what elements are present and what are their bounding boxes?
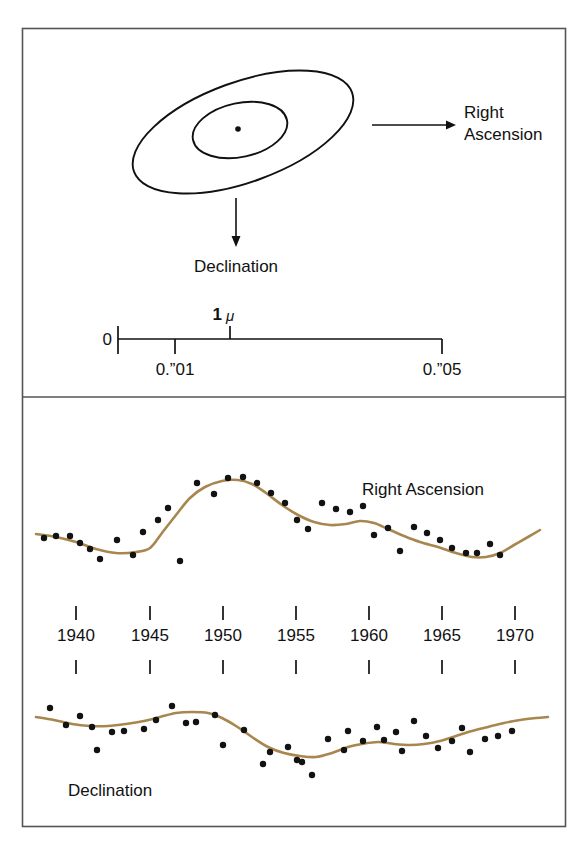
data-point — [495, 733, 501, 739]
data-point — [325, 736, 331, 742]
data-point — [225, 475, 231, 481]
data-point — [319, 500, 325, 506]
year-tick-label: 1950 — [204, 626, 242, 645]
data-point — [294, 517, 300, 523]
data-point — [411, 524, 417, 530]
data-point — [47, 705, 53, 711]
data-point — [141, 726, 147, 732]
year-tick-label: 1955 — [277, 626, 315, 645]
data-point — [254, 480, 260, 486]
data-point — [41, 535, 47, 541]
data-point — [153, 717, 159, 723]
data-point — [285, 744, 291, 750]
year-tick-label: 1965 — [423, 626, 461, 645]
data-point — [467, 749, 473, 755]
scale-bar-zero-label: 0 — [103, 330, 112, 349]
right-ascension-axis-label-line2: Ascension — [464, 125, 542, 144]
data-point — [487, 541, 493, 547]
data-point — [67, 533, 73, 539]
data-point — [347, 509, 353, 515]
data-point — [299, 759, 305, 765]
data-point — [77, 540, 83, 546]
data-point — [371, 532, 377, 538]
data-point — [385, 525, 391, 531]
data-point — [482, 736, 488, 742]
data-point — [435, 745, 441, 751]
year-tick-label: 1940 — [57, 626, 95, 645]
data-point — [345, 728, 351, 734]
data-point — [220, 742, 226, 748]
data-point — [130, 552, 136, 558]
data-point — [309, 772, 315, 778]
declination-series-label: Declination — [68, 781, 152, 800]
data-point — [155, 517, 161, 523]
data-point — [169, 703, 175, 709]
data-point — [94, 747, 100, 753]
data-point — [399, 748, 405, 754]
data-point — [497, 552, 503, 558]
data-point — [437, 537, 443, 543]
data-point — [211, 491, 217, 497]
data-point — [193, 719, 199, 725]
data-point — [77, 713, 83, 719]
data-point — [360, 503, 366, 509]
data-point — [411, 718, 417, 724]
data-point — [87, 546, 93, 552]
figure-container: Right Ascension Declination 0 1 μ 0.”01 … — [0, 0, 588, 856]
declination-axis-label: Declination — [194, 257, 278, 276]
data-point — [53, 533, 59, 539]
year-tick-label: 1970 — [496, 626, 534, 645]
data-point — [282, 500, 288, 506]
data-point — [360, 738, 366, 744]
astrometry-figure: Right Ascension Declination 0 1 μ 0.”01 … — [0, 0, 588, 856]
data-point — [374, 724, 380, 730]
data-point — [97, 556, 103, 562]
data-point — [114, 537, 120, 543]
data-point — [333, 506, 339, 512]
data-point — [241, 727, 247, 733]
scale-bar-mu-symbol: μ — [225, 307, 234, 324]
year-tick-label: 1960 — [350, 626, 388, 645]
data-point — [509, 728, 515, 734]
star-position-dot — [235, 126, 241, 132]
data-point — [89, 724, 95, 730]
data-point — [212, 712, 218, 718]
data-point — [449, 738, 455, 744]
data-point — [240, 474, 246, 480]
data-point — [305, 526, 311, 532]
data-point — [393, 729, 399, 735]
data-point — [381, 737, 387, 743]
data-point — [268, 490, 274, 496]
right-ascension-axis-label-line1: Right — [464, 103, 504, 122]
data-point — [267, 749, 273, 755]
data-point — [463, 550, 469, 556]
data-point — [165, 505, 171, 511]
scale-bar-label-005: 0.”05 — [423, 360, 462, 379]
data-point — [183, 720, 189, 726]
data-point — [423, 733, 429, 739]
data-point — [140, 529, 146, 535]
data-point — [121, 728, 127, 734]
data-point — [194, 480, 200, 486]
data-point — [109, 729, 115, 735]
data-point — [397, 548, 403, 554]
data-point — [424, 530, 430, 536]
scale-bar-label-001: 0.”01 — [156, 360, 195, 379]
data-point — [459, 725, 465, 731]
data-point — [260, 761, 266, 767]
data-point — [449, 545, 455, 551]
right-ascension-series-label: Right Ascension — [362, 480, 484, 499]
data-point — [63, 722, 69, 728]
data-point — [341, 747, 347, 753]
scale-bar-mu-number: 1 — [213, 305, 222, 324]
data-point — [177, 558, 183, 564]
year-tick-label: 1945 — [131, 626, 169, 645]
data-point — [474, 550, 480, 556]
